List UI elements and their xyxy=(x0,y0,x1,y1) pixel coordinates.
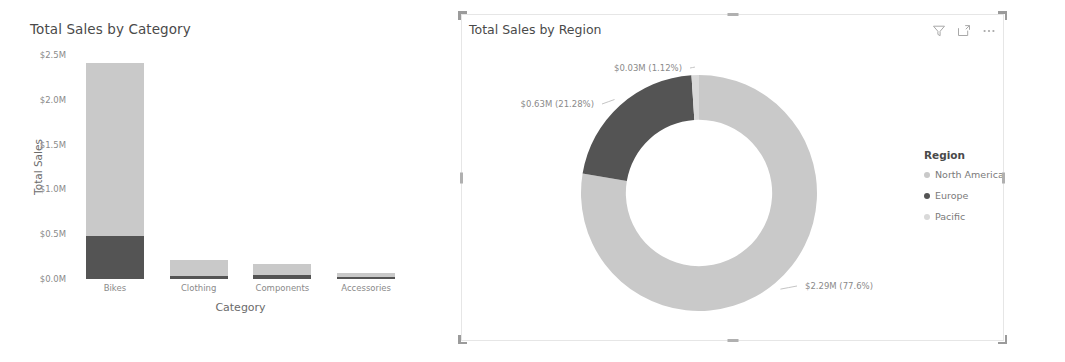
legend-color-swatch-icon xyxy=(924,214,930,220)
bar-column[interactable]: Bikes xyxy=(86,63,144,279)
bar-segment[interactable] xyxy=(170,276,228,279)
resize-handle-bottom-left[interactable] xyxy=(458,335,467,344)
bar-y-tick-label: $1.0M xyxy=(40,184,66,194)
donut-chart-visual[interactable]: Total Sales by Region $2.29M (77.6%)$0.6… xyxy=(461,14,1004,341)
bar-plot-area: $2.5M$2.0M$1.5M$1.0M$0.5M$0.0MBikesCloth… xyxy=(73,55,408,279)
bar-x-tick-label: Clothing xyxy=(181,283,216,293)
donut-data-label: $0.03M (1.12%) xyxy=(614,63,682,73)
legend-color-swatch-icon xyxy=(924,193,930,199)
resize-handle-top-center[interactable] xyxy=(727,13,738,16)
donut-legend: Region North AmericaEuropePacific xyxy=(924,149,1014,232)
legend-item[interactable]: Europe xyxy=(924,190,1014,201)
resize-handle-bottom-right[interactable] xyxy=(998,335,1007,344)
legend-color-swatch-icon xyxy=(924,172,930,178)
bar-x-tick-label: Components xyxy=(255,283,309,293)
bar-x-tick-label: Bikes xyxy=(104,283,126,293)
resize-handle-bottom-center[interactable] xyxy=(727,339,738,342)
bar-segment[interactable] xyxy=(337,277,395,279)
bar-y-tick-label: $2.0M xyxy=(40,95,66,105)
bar-segment[interactable] xyxy=(170,260,228,276)
bar-y-tick-label: $2.5M xyxy=(40,50,66,60)
bar-x-tick-label: Accessories xyxy=(341,283,391,293)
bar-segment[interactable] xyxy=(253,275,311,279)
donut-plot-area: $2.29M (77.6%)$0.63M (21.28%)$0.03M (1.1… xyxy=(462,15,1003,340)
legend-item[interactable]: North America xyxy=(924,169,1014,180)
bar-segment[interactable] xyxy=(86,63,144,236)
donut-slice[interactable] xyxy=(583,75,695,181)
legend-item-label: Pacific xyxy=(935,211,965,222)
donut-label-leader-line xyxy=(690,67,695,68)
bar-chart-title: Total Sales by Category xyxy=(30,21,191,37)
bar-y-tick-label: $0.5M xyxy=(40,229,66,239)
bar-x-axis-title: Category xyxy=(73,301,408,314)
resize-handle-middle-right[interactable] xyxy=(1002,172,1005,183)
donut-data-label: $0.63M (21.28%) xyxy=(521,99,594,109)
donut-label-leader-line xyxy=(780,286,797,289)
donut-label-leader-line xyxy=(602,100,615,104)
legend-item[interactable]: Pacific xyxy=(924,211,1014,222)
bar-column[interactable]: Clothing xyxy=(170,260,228,279)
bar-segment[interactable] xyxy=(253,264,311,276)
bar-y-tick-label: $1.5M xyxy=(40,140,66,150)
resize-handle-top-right[interactable] xyxy=(998,11,1007,20)
legend-item-label: Europe xyxy=(935,190,968,201)
bar-column[interactable]: Components xyxy=(253,264,311,279)
bar-chart-visual[interactable]: Total Sales by Category Total Sales Cate… xyxy=(0,0,440,340)
legend-items: North AmericaEuropePacific xyxy=(924,169,1014,222)
bar-segment[interactable] xyxy=(86,236,144,279)
donut-data-label: $2.29M (77.6%) xyxy=(805,281,873,291)
bar-y-tick-label: $0.0M xyxy=(40,274,66,284)
resize-handle-middle-left[interactable] xyxy=(460,172,463,183)
legend-item-label: North America xyxy=(935,169,1004,180)
legend-title: Region xyxy=(924,149,1014,161)
resize-handle-top-left[interactable] xyxy=(458,11,467,20)
bar-column[interactable]: Accessories xyxy=(337,273,395,279)
